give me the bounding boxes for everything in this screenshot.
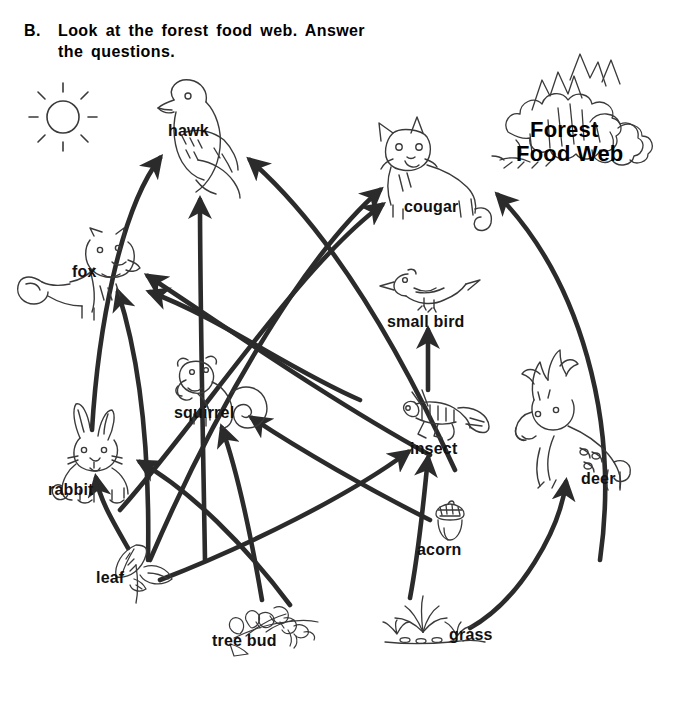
deer-icon [510,352,655,482]
node-label-small-bird: small bird [387,313,465,331]
small-bird-icon [378,266,483,318]
node-label-fox: fox [72,263,97,281]
node-label-grass: grass [449,626,493,644]
sun-icon [28,82,98,152]
node-label-acorn: acorn [417,541,462,559]
food-web-arrow [222,428,262,600]
acorn-icon [426,498,474,546]
node-label-leaf: leaf [96,569,124,587]
node-label-tree-bud: tree bud [212,632,277,650]
node-label-squirrel: squirrel [174,404,234,422]
node-label-hawk: hawk [168,122,209,140]
node-label-insect: insect [410,440,457,458]
grasshopper-icon [396,386,501,444]
node-label-cougar: cougar [404,198,459,216]
food-web-arrow [160,452,408,580]
worksheet-page: B. Look at the forest food web. Answer t… [0,0,684,709]
node-label-deer: deer [581,470,616,488]
node-label-rabbit: rabbit [48,481,94,499]
